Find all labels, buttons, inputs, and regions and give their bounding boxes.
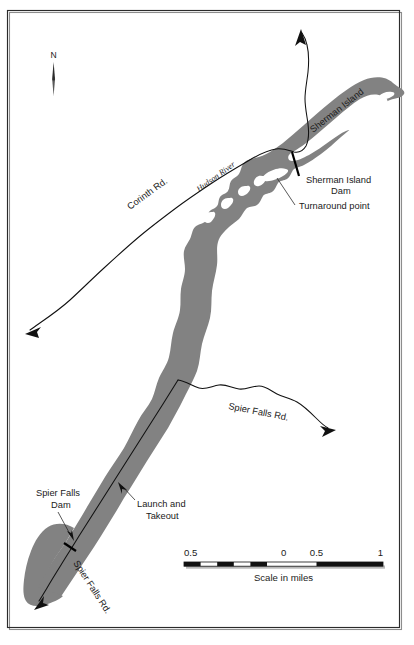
north-arrow-label: N xyxy=(50,50,56,60)
scale-bar-segment-1 xyxy=(184,562,201,566)
scale-bar-tick-2: 0.5 xyxy=(310,547,323,558)
map-canvas: N Corinth Rd. Hudson River Sherman Islan… xyxy=(0,0,414,645)
scale-bar-segment-2 xyxy=(217,562,234,566)
scale-bar-tick-1: 0 xyxy=(281,547,286,558)
map-figure: N Corinth Rd. Hudson River Sherman Islan… xyxy=(0,0,414,645)
label-sherman-island-dam-line2: Dam xyxy=(331,186,351,196)
label-turnaround-point: Turnaround point xyxy=(299,201,370,211)
label-launch-takeout-line2: Takeout xyxy=(146,511,179,521)
scale-bar-segment-3 xyxy=(250,562,267,566)
scale-bar-caption: Scale in miles xyxy=(254,572,313,583)
scale-bar-segment-4 xyxy=(317,562,384,566)
label-spier-falls-dam-line2: Dam xyxy=(51,500,71,510)
label-launch-takeout-line1: Launch and xyxy=(137,499,186,509)
label-spier-falls-dam-line1: Spier Falls xyxy=(36,488,80,498)
scale-bar-tick-0: 0.5 xyxy=(184,547,197,558)
north-arrow-pivot xyxy=(52,78,55,81)
scale-bar-tick-3: 1 xyxy=(378,547,383,558)
label-sherman-island-dam-line1: Sherman Island xyxy=(306,175,371,185)
